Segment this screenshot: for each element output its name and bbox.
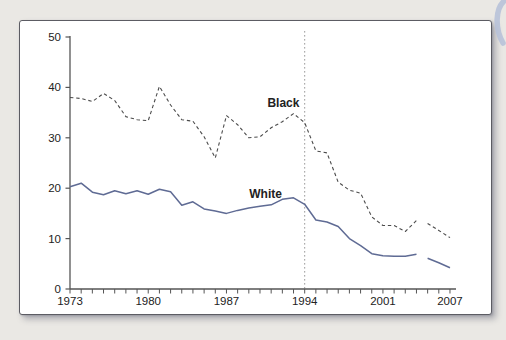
page-curl-icon: [497, 1, 504, 43]
series-line-black: [428, 224, 450, 238]
y-tick-label: 0: [55, 283, 61, 295]
series-line-white: [70, 183, 417, 256]
series-label-white: White: [249, 187, 282, 201]
y-tick-label: 30: [48, 132, 61, 144]
chart-canvas: 01020304050197319801987199420012007Black…: [0, 0, 506, 340]
y-tick-label: 50: [48, 31, 61, 43]
x-tick-label: 1994: [292, 295, 318, 307]
series-label-black: Black: [267, 96, 299, 110]
x-tick-label: 2007: [437, 295, 463, 307]
y-tick-label: 20: [48, 182, 61, 194]
y-tick-label: 40: [48, 81, 61, 93]
x-tick-label: 1973: [57, 295, 83, 307]
plot-area: 01020304050197319801987199420012007Black…: [48, 31, 463, 307]
page-background: 01020304050197319801987199420012007Black…: [0, 0, 506, 340]
x-tick-label: 1987: [214, 295, 240, 307]
series-line-white: [428, 258, 450, 268]
y-tick-label: 10: [48, 233, 61, 245]
x-tick-label: 2001: [370, 295, 396, 307]
x-tick-label: 1980: [135, 295, 161, 307]
